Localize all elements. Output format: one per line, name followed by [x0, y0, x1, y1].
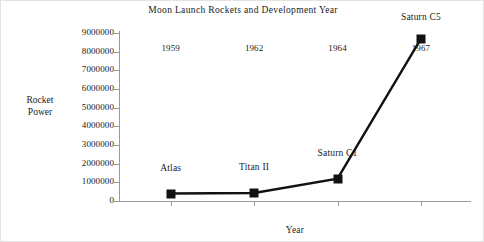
data-point-marker	[166, 189, 175, 198]
series-line	[1, 1, 484, 242]
data-point-marker	[416, 34, 425, 43]
chart-figure: Moon Launch Rockets and Development Year…	[0, 0, 484, 242]
data-point-label: Saturn C5	[401, 12, 441, 22]
data-point-marker	[250, 188, 259, 197]
data-point-label: Atlas	[160, 163, 181, 173]
data-point-label: Saturn C1	[317, 148, 357, 158]
data-point-marker	[333, 174, 342, 183]
x-axis-title: Year	[119, 225, 471, 235]
data-point-label: Titan II	[239, 162, 269, 172]
